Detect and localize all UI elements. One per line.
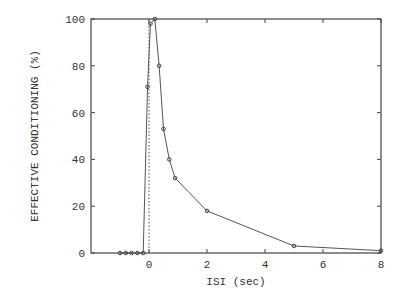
x-tick-label: 6 bbox=[320, 259, 327, 271]
plot-frame bbox=[91, 19, 381, 253]
x-tick-label: 8 bbox=[378, 259, 385, 271]
data-series bbox=[118, 17, 383, 255]
y-tick-label: 60 bbox=[72, 108, 85, 120]
x-tick-label: 4 bbox=[262, 259, 269, 271]
y-tick-label: 40 bbox=[72, 154, 85, 166]
y-tick-label: 0 bbox=[78, 248, 85, 260]
x-tick-label: 2 bbox=[204, 259, 211, 271]
x-tick-label: 0 bbox=[146, 259, 153, 271]
chart: 02468020406080100 ISI (sec) EFFECTIVE CO… bbox=[0, 0, 397, 299]
x-axis-label: ISI (sec) bbox=[206, 276, 265, 288]
y-axis-label: EFFECTIVE CONDITIONING (%) bbox=[29, 50, 41, 222]
y-tick-label: 100 bbox=[65, 14, 85, 26]
y-tick-label: 80 bbox=[72, 61, 85, 73]
y-tick-label: 20 bbox=[72, 201, 85, 213]
axis-ticks: 02468020406080100 bbox=[65, 14, 384, 271]
